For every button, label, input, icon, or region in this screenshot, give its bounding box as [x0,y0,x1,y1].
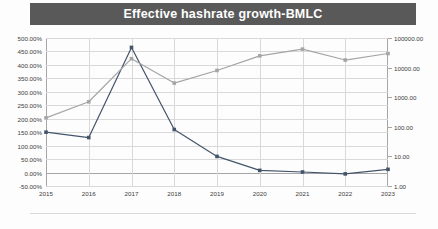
x-axis-tick-label: 2017 [125,190,139,197]
right-axis-tick-label: 1.00 [394,183,436,190]
gridline-vertical [89,38,90,186]
right-axis-tick [388,38,392,39]
right-axis-tick [388,68,392,69]
gridline-vertical [345,38,346,186]
gridline-vertical [174,38,175,186]
right-axis-tick-label: 100.00 [394,123,436,130]
left-axis-tick-label: 250.00% [2,102,42,109]
gridline-vertical [132,38,133,186]
right-axis-tick-label: 10.00 [394,153,436,160]
left-axis-tick-label: -50.00% [2,183,42,190]
x-axis-tick-label: 2022 [338,190,352,197]
right-axis-tick-label: 10000.00 [394,64,436,71]
gridline-vertical [217,38,218,186]
x-axis-tick-label: 2021 [296,190,310,197]
left-axis-tick-label: 100.00% [2,142,42,149]
bottom-frame-rule [30,213,416,214]
right-axis-tick [388,186,392,187]
right-axis-tick-label: 1000.00 [394,94,436,101]
right-axis-tick-label: 100000.00 [394,35,436,42]
gridline-vertical [303,38,304,186]
right-axis-tick [388,127,392,128]
left-axis-tick-label: 0.00% [2,169,42,176]
x-axis-tick-label: 2016 [82,190,96,197]
page-title: Effective hashrate growth-BMLC [123,7,322,21]
left-axis-tick-label: 200.00% [2,115,42,122]
gridline-vertical [260,38,261,186]
left-axis-tick-label: 50.00% [2,156,42,163]
left-axis-tick-label: 300.00% [2,88,42,95]
right-axis-tick [388,156,392,157]
chart-container: Effective hashrate growth-BMLC -50.00%0.… [0,0,438,229]
x-axis-tick-label: 2023 [381,190,395,197]
left-axis-line [46,38,47,186]
chart-title-banner: Effective hashrate growth-BMLC [30,3,416,25]
plot-area [46,38,388,186]
x-axis-tick-label: 2015 [39,190,53,197]
right-axis-tick [388,97,392,98]
gridline [46,186,388,187]
left-axis-tick-label: 350.00% [2,75,42,82]
left-axis-tick-label: 400.00% [2,61,42,68]
x-axis-tick-label: 2018 [167,190,181,197]
x-axis-tick-label: 2019 [210,190,224,197]
left-axis-tick-label: 500.00% [2,35,42,42]
left-axis-tick-label: 150.00% [2,129,42,136]
right-axis-line [387,38,388,186]
x-axis-tick-label: 2020 [253,190,267,197]
left-axis-tick-label: 450.00% [2,48,42,55]
